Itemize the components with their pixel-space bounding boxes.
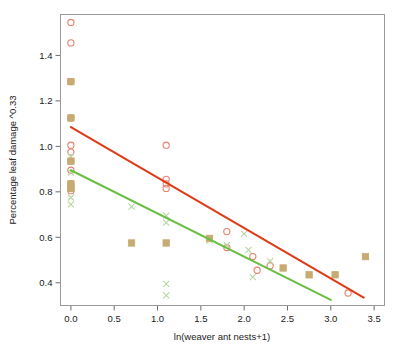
y-axis-label: Percentage leaf damage ^0.33 (7, 95, 18, 224)
data-point-square (68, 158, 74, 164)
x-tick-label: 2.5 (281, 313, 294, 324)
y-tick-label: 1.0 (39, 141, 52, 152)
x-tick-label: 0.0 (64, 313, 77, 324)
x-tick-label: 0.5 (108, 313, 121, 324)
data-point-square (362, 253, 368, 259)
y-tick-label: 1.2 (39, 95, 52, 106)
scatter-plot: 0.00.51.01.52.02.53.03.5 0.40.60.81.01.2… (0, 0, 404, 351)
x-tick-label: 1.0 (151, 313, 164, 324)
y-tick-label: 0.4 (39, 277, 52, 288)
data-point-square (128, 240, 134, 246)
data-point-square (68, 185, 74, 191)
x-tick-label: 3.5 (367, 313, 380, 324)
y-tick-label: 1.4 (39, 50, 52, 61)
data-point-square (280, 265, 286, 271)
y-tick-label: 0.6 (39, 232, 52, 243)
chart-container: 0.00.51.01.52.02.53.03.5 0.40.60.81.01.2… (0, 0, 404, 351)
data-point-square (163, 240, 169, 246)
data-point-square (68, 115, 74, 121)
data-point-square (332, 272, 338, 278)
x-axis-label: ln(weaver ant nests+1) (174, 331, 270, 342)
y-tick-label: 0.8 (39, 186, 52, 197)
x-tick-label: 3.0 (324, 313, 337, 324)
data-point-square (68, 78, 74, 84)
x-tick-label: 1.5 (194, 313, 207, 324)
x-tick-label: 2.0 (238, 313, 251, 324)
data-point-square (306, 272, 312, 278)
